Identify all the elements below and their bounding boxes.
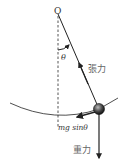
tension-arrow-icon bbox=[79, 63, 88, 84]
swing-arc bbox=[10, 103, 99, 115]
angle-arc-icon bbox=[58, 45, 69, 50]
angle-label: θ bbox=[61, 53, 66, 62]
gravity-label: 重力 bbox=[73, 144, 91, 155]
tangential-component-label: mg sinθ bbox=[58, 123, 88, 132]
pendulum-bob bbox=[94, 104, 105, 115]
pivot-label: O bbox=[54, 6, 61, 16]
diagram-svg: O θ 張力 mg sinθ 重力 bbox=[0, 0, 129, 168]
tension-label: 張力 bbox=[88, 63, 106, 74]
pendulum-diagram: O θ 張力 mg sinθ 重力 bbox=[0, 0, 129, 168]
